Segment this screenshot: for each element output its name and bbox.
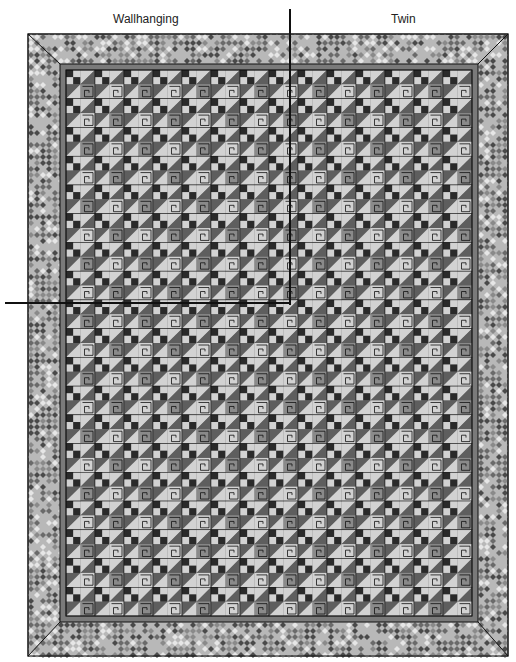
- quilt-block: [385, 300, 414, 329]
- four-patch-dark: [298, 70, 305, 77]
- quilt-block: [356, 214, 385, 243]
- quilt-block: [385, 99, 414, 128]
- four-patch-dark: [305, 307, 312, 314]
- four-patch-dark: [334, 163, 341, 170]
- quilt-block: [182, 501, 211, 530]
- quilt-block: [124, 386, 153, 415]
- four-patch-light: [443, 537, 450, 544]
- four-patch-dark: [276, 336, 283, 343]
- quilt-block: [95, 99, 124, 128]
- four-patch-dark: [189, 566, 196, 573]
- quilt-block: [269, 99, 298, 128]
- four-patch-dark: [160, 135, 167, 142]
- four-patch-light: [211, 163, 218, 170]
- four-patch-light: [421, 127, 428, 134]
- quilt-block: [124, 472, 153, 501]
- four-patch-dark: [124, 329, 131, 336]
- four-patch-dark: [211, 156, 218, 163]
- four-patch-dark: [356, 530, 363, 537]
- quilt-block: [443, 70, 472, 99]
- four-patch-light: [160, 329, 167, 336]
- quilt-block: [240, 99, 269, 128]
- four-patch-light: [269, 221, 276, 228]
- four-patch-light: [443, 250, 450, 257]
- four-patch-dark: [450, 365, 457, 372]
- four-patch-dark: [363, 537, 370, 544]
- quilt-block: [211, 357, 240, 386]
- four-patch-light: [298, 594, 305, 601]
- quilt-block: [211, 271, 240, 300]
- four-patch-light: [334, 156, 341, 163]
- quilt-block: [385, 587, 414, 616]
- quilt-block: [95, 156, 124, 185]
- four-patch-dark: [450, 537, 457, 544]
- four-patch-dark: [269, 329, 276, 336]
- four-patch-light: [124, 163, 131, 170]
- quilt-block: [356, 415, 385, 444]
- quilt-block: [124, 185, 153, 214]
- four-patch-dark: [363, 163, 370, 170]
- four-patch-light: [356, 594, 363, 601]
- quilt-block: [298, 156, 327, 185]
- four-patch-dark: [211, 214, 218, 221]
- four-patch-dark: [247, 307, 254, 314]
- quilt-block: [356, 300, 385, 329]
- four-patch-dark: [218, 393, 225, 400]
- quilt-block: [66, 271, 95, 300]
- four-patch-light: [298, 393, 305, 400]
- four-patch-light: [153, 221, 160, 228]
- four-patch-light: [305, 70, 312, 77]
- four-patch-dark: [421, 451, 428, 458]
- four-patch-light: [269, 393, 276, 400]
- four-patch-dark: [95, 156, 102, 163]
- four-patch-light: [327, 192, 334, 199]
- four-patch-dark: [334, 250, 341, 257]
- four-patch-light: [298, 307, 305, 314]
- four-patch-light: [66, 192, 73, 199]
- four-patch-light: [414, 307, 421, 314]
- four-patch-dark: [182, 156, 189, 163]
- four-patch-dark: [450, 77, 457, 84]
- four-patch-dark: [421, 566, 428, 573]
- four-patch-dark: [66, 242, 73, 249]
- four-patch-light: [385, 250, 392, 257]
- four-patch-light: [356, 365, 363, 372]
- four-patch-dark: [73, 480, 80, 487]
- four-patch-dark: [189, 393, 196, 400]
- four-patch-light: [160, 530, 167, 537]
- four-patch-light: [450, 156, 457, 163]
- four-patch-dark: [247, 250, 254, 257]
- four-patch-light: [298, 508, 305, 515]
- four-patch-light: [392, 386, 399, 393]
- four-patch-light: [66, 422, 73, 429]
- four-patch-light: [160, 559, 167, 566]
- four-patch-light: [247, 214, 254, 221]
- four-patch-dark: [240, 386, 247, 393]
- quilt-block: [443, 127, 472, 156]
- four-patch-light: [73, 70, 80, 77]
- quilt-block: [95, 271, 124, 300]
- four-patch-dark: [218, 307, 225, 314]
- four-patch-light: [247, 99, 254, 106]
- quilt-block: [414, 300, 443, 329]
- four-patch-light: [421, 530, 428, 537]
- quilt-block: [182, 156, 211, 185]
- four-patch-light: [218, 127, 225, 134]
- four-patch-dark: [385, 501, 392, 508]
- four-patch-dark: [95, 329, 102, 336]
- quilt-block: [95, 214, 124, 243]
- four-patch-light: [189, 501, 196, 508]
- four-patch-dark: [269, 444, 276, 451]
- four-patch-dark: [298, 300, 305, 307]
- four-patch-dark: [392, 422, 399, 429]
- four-patch-light: [124, 307, 131, 314]
- four-patch-dark: [298, 386, 305, 393]
- quilt-block: [356, 444, 385, 473]
- four-patch-dark: [298, 99, 305, 106]
- quilt-block: [443, 415, 472, 444]
- four-patch-light: [269, 163, 276, 170]
- four-patch-dark: [392, 77, 399, 84]
- quilt-block: [298, 415, 327, 444]
- four-patch-light: [450, 300, 457, 307]
- four-patch-light: [269, 480, 276, 487]
